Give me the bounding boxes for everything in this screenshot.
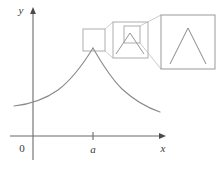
curve-left-branch <box>14 48 93 106</box>
y-axis-label: y <box>18 4 24 16</box>
connector-line-1-bottom <box>105 51 113 58</box>
x-tick-label-a: a <box>90 143 96 155</box>
connector-line-2-bottom <box>140 43 161 69</box>
connector-box2-to-box3 <box>140 15 161 69</box>
magnification-box-3 <box>161 15 215 69</box>
magnification-box-2-inner <box>124 26 140 43</box>
x-axis-arrowhead <box>159 133 166 139</box>
figure-canvas: y x 0 a <box>0 0 220 177</box>
math-figure: y x 0 a <box>0 0 220 177</box>
magnification-box-1-group <box>83 29 105 51</box>
connector-line-2-top <box>140 15 161 26</box>
magnification-box-2-group <box>113 22 148 58</box>
axes-group <box>10 7 166 160</box>
y-axis-arrowhead <box>30 7 36 14</box>
connector-box1-to-box2 <box>105 22 113 58</box>
curve-right-branch <box>93 48 160 112</box>
x-axis-label: x <box>160 142 166 154</box>
magnification-box-1 <box>83 29 105 51</box>
connector-line-1-top <box>105 22 113 29</box>
inset-curve-3 <box>170 28 206 64</box>
magnification-box-3-group <box>161 15 215 69</box>
function-curve-group <box>14 48 160 112</box>
origin-label: 0 <box>19 142 25 154</box>
